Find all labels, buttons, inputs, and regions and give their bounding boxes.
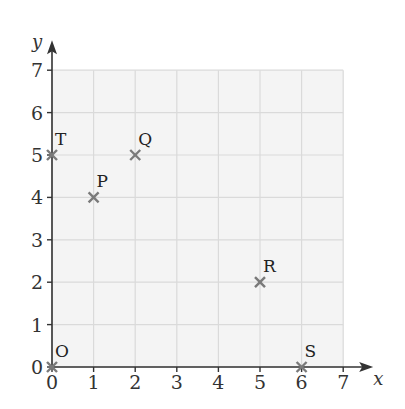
x-tick-label: 0 (46, 371, 58, 393)
point-label: P (97, 171, 108, 191)
y-tick-label: 6 (31, 102, 43, 124)
coordinate-grid-chart: 0123456701234567xyOPQRST (0, 0, 405, 409)
x-tick-label: 7 (337, 371, 349, 393)
x-tick-label: 4 (212, 371, 224, 393)
y-tick-label: 4 (31, 186, 43, 208)
x-tick-label: 5 (254, 371, 266, 393)
y-axis-label: y (31, 31, 43, 52)
y-tick-label: 7 (31, 59, 43, 81)
point-label: T (55, 129, 67, 149)
y-tick-label: 2 (31, 271, 43, 293)
x-tick-label: 3 (171, 371, 183, 393)
x-tick-label: 1 (88, 371, 100, 393)
point-label: Q (138, 129, 152, 149)
point-label: O (55, 341, 69, 361)
y-tick-label: 1 (31, 314, 43, 336)
x-tick-label: 6 (296, 371, 308, 393)
point-label: S (305, 341, 317, 361)
x-tick-label: 2 (129, 371, 141, 393)
y-tick-label: 0 (31, 356, 43, 378)
x-axis-label: x (373, 368, 383, 389)
point-label: R (263, 256, 277, 276)
grid-background (52, 70, 343, 367)
y-tick-label: 5 (31, 144, 43, 166)
y-tick-label: 3 (31, 229, 43, 251)
